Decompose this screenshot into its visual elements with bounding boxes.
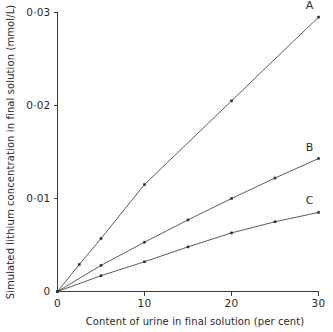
data-point-marker — [143, 260, 146, 263]
data-point-marker — [143, 183, 146, 186]
data-point-marker — [187, 246, 190, 249]
series-label-a: A — [306, 0, 314, 12]
data-point-marker — [187, 219, 190, 222]
y-tick-label: 0·01 — [26, 192, 50, 204]
data-point-marker — [230, 197, 233, 200]
chart-figure: 00·010·020·03 0102030 ABC Content of uri… — [0, 0, 333, 332]
x-tick-label: 0 — [54, 297, 61, 309]
y-tick-label: 0·03 — [26, 6, 50, 18]
data-point-marker — [100, 237, 103, 240]
data-point-marker — [317, 157, 320, 160]
x-tick-label: 30 — [312, 297, 326, 309]
data-point-marker — [230, 100, 233, 103]
data-point-marker — [274, 177, 277, 180]
series-label-b: B — [306, 141, 314, 154]
x-tick-label: 10 — [138, 297, 152, 309]
x-axis-title: Content of urine in final solution (per … — [86, 316, 304, 327]
data-point-marker — [78, 263, 81, 266]
y-tick-label: 0·02 — [26, 99, 50, 111]
chart-background — [0, 0, 333, 332]
x-tick-label: 20 — [225, 297, 239, 309]
y-tick-label: 0 — [44, 285, 51, 297]
data-point-marker — [274, 220, 277, 223]
chart-svg: 00·010·020·03 0102030 ABC Content of uri… — [0, 0, 333, 332]
data-point-marker — [56, 290, 59, 293]
data-point-marker — [143, 241, 146, 244]
y-axis-title: Simulated lithium concentration in final… — [5, 5, 16, 300]
data-point-marker — [100, 274, 103, 277]
data-point-marker — [317, 16, 320, 19]
data-point-marker — [230, 232, 233, 235]
series-label-c: C — [306, 194, 314, 207]
data-point-marker — [100, 264, 103, 267]
data-point-marker — [317, 211, 320, 214]
